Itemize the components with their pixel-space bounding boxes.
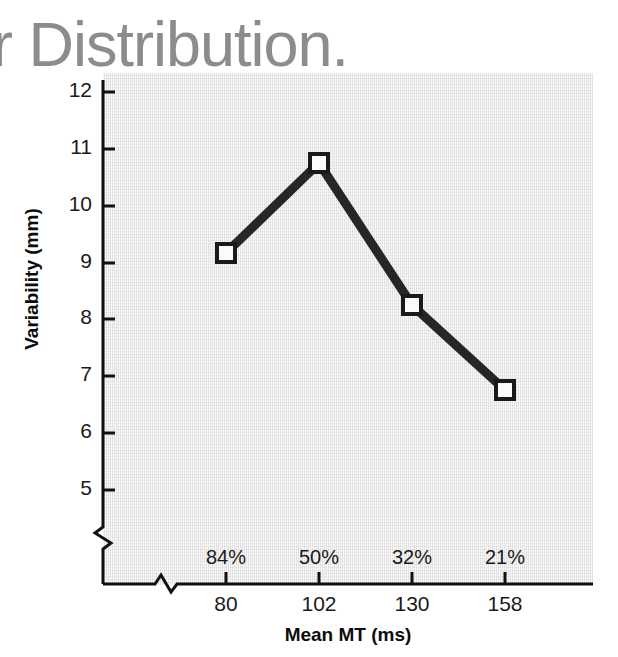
x-axis-line	[103, 575, 593, 592]
data-point-marker	[403, 296, 421, 314]
data-point-marker	[310, 154, 328, 172]
y-axis-title: Variability (mm)	[21, 189, 43, 369]
series-line-variability	[226, 163, 505, 390]
y-axis-ticks	[103, 92, 115, 490]
x-axis-title: Mean MT (ms)	[103, 624, 593, 646]
data-point-marker	[496, 381, 514, 399]
y-axis-line	[95, 80, 111, 584]
data-point-marker	[217, 244, 235, 262]
figure-page: r Distribution.	[0, 0, 618, 657]
x-axis-ticks	[226, 572, 505, 584]
